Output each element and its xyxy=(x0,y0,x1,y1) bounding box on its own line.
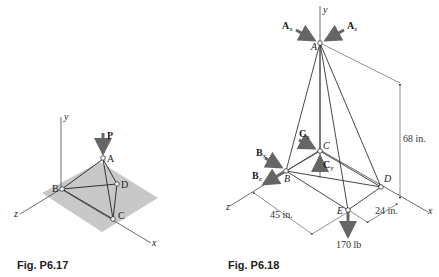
force-cx-label: Cx xyxy=(299,128,310,141)
ground-plane xyxy=(42,162,158,232)
dim-24-label: 24 in. xyxy=(375,205,398,216)
load-p-label: P xyxy=(107,130,113,141)
force-ax-arrow xyxy=(296,30,314,40)
force-bz-arrow xyxy=(264,172,284,184)
point-b-label: B xyxy=(52,183,59,194)
y-axis-label: y xyxy=(322,4,328,15)
point-a-label: A xyxy=(107,153,115,164)
force-cy-label: Cy xyxy=(323,159,334,172)
dim-45-label: 45 in. xyxy=(270,209,293,220)
fig-p6-18: 68 in. 45 in. 24 in. y z x A C B D E xyxy=(225,4,433,250)
dim-68-label: 68 in. xyxy=(403,133,426,144)
force-bz-label: Bz xyxy=(252,170,262,183)
x-axis-label: x xyxy=(151,237,157,248)
point-c-label: C xyxy=(323,140,330,151)
caption-p6-18: Fig. P6.18 xyxy=(228,259,279,271)
point-d-label: D xyxy=(383,173,392,184)
force-cx-arrow xyxy=(299,140,314,148)
point-c-label: C xyxy=(118,210,125,221)
point-b-label: B xyxy=(284,173,290,184)
force-ax-label: Ax xyxy=(282,20,293,33)
z-axis-label: z xyxy=(13,208,18,219)
caption-p6-17: Fig. P6.17 xyxy=(17,259,68,271)
force-az-arrow xyxy=(326,30,344,40)
y-axis-label: y xyxy=(63,111,69,122)
figures-canvas: y z x P A B C D 68 in. xyxy=(0,0,439,277)
point-a-label: A xyxy=(310,41,318,52)
point-d-label: D xyxy=(121,179,128,190)
fig-p6-17: y z x P A B C D xyxy=(13,111,158,248)
force-bx-arrow xyxy=(265,158,281,167)
force-az-label: Az xyxy=(347,20,357,33)
z-axis-label: z xyxy=(225,201,230,212)
x-axis-label: x xyxy=(427,205,433,216)
point-e-label: E xyxy=(336,205,343,216)
force-bx-label: Bx xyxy=(256,147,267,160)
load-170-label: 170 lb xyxy=(336,239,361,250)
